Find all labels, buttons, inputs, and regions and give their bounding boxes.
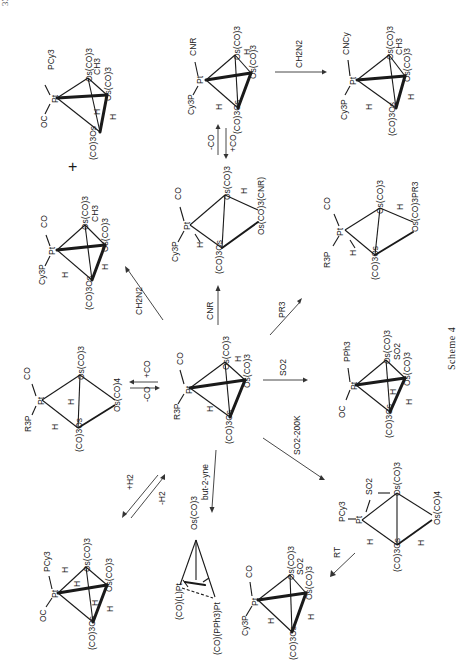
chem-label: Pt xyxy=(50,589,60,598)
scheme-canvas: 334 PCy3 OC Pt Os(CO)3 CH3 Os(CO)3 H H (… xyxy=(0,0,473,672)
chem-label: CO xyxy=(39,215,49,228)
chem-label: CO xyxy=(322,197,332,210)
arrow-pr3: PR3 xyxy=(270,298,302,335)
chem-label: H xyxy=(395,204,405,210)
chem-label: CH2N2 xyxy=(134,287,144,315)
chem-label: H xyxy=(404,399,414,405)
chem-label: +H2 xyxy=(125,474,135,490)
chem-label: H xyxy=(388,389,398,395)
chem-label: H xyxy=(195,242,205,248)
chem-label: R3P xyxy=(322,251,332,268)
chem-label: (CO)3Os xyxy=(214,240,224,274)
chem-label: PCy3 xyxy=(46,49,56,70)
chem-label: H xyxy=(205,406,215,412)
chem-label: PR3 xyxy=(277,301,287,318)
structure-bottom-so2: CO Cy3P Pt Os(CO)3 SO2 Os(CO)3 H H (CO)3… xyxy=(240,546,316,660)
structure-bottom-left: PCy3 OC Pt H H Os(CO)3 Os(CO)3 H H (CO)3… xyxy=(38,538,115,650)
chem-label: (CO)3Os xyxy=(224,410,234,444)
chem-label: Os(CO)3 xyxy=(402,48,412,82)
chem-label: H xyxy=(105,606,115,612)
chem-label: Pt xyxy=(47,246,57,255)
chem-label: Pt xyxy=(50,94,60,103)
arrow-ch2n2-top: CH2N2 xyxy=(275,40,327,75)
page-number: 334 xyxy=(0,0,10,6)
chem-label: H xyxy=(306,614,316,620)
chem-label: -CO xyxy=(206,134,216,150)
chem-label: Os(CO)3 xyxy=(221,336,231,370)
chem-label: Os(CO)3 xyxy=(304,566,314,600)
chem-label: H xyxy=(72,581,82,587)
chem-label: Os(CO)3 xyxy=(222,166,232,200)
arrow-h2-equilibrium: +H2 -H2 xyxy=(122,474,167,518)
arrow-but-2-yne: but-2-yne xyxy=(200,450,216,513)
chem-label: H xyxy=(50,424,60,430)
chem-label: Os(CO)3(CNR) xyxy=(256,177,266,235)
chem-label: SO2 xyxy=(278,359,288,376)
chem-label: H xyxy=(60,567,70,573)
arrow-ch2n2-left: CH2N2 xyxy=(125,266,163,320)
chem-label: Os(CO)4 xyxy=(112,378,122,412)
chem-label: H xyxy=(214,104,224,110)
chem-label: Pt xyxy=(335,227,345,236)
chem-label: H xyxy=(365,539,375,545)
arrow-so2-200k: SO2-200K xyxy=(263,415,325,480)
chem-label: Os(CO)4 xyxy=(432,491,442,525)
chem-label: (CO)3Os xyxy=(84,276,94,310)
chem-label: H xyxy=(406,94,416,100)
chem-label: (CO)3Os xyxy=(392,538,402,572)
chem-label: but-2-yne xyxy=(200,464,210,500)
structure-bottom-alkyne: Os(CO)3 (CO)(L)Pt (CO)(PPh3)Pt xyxy=(174,496,222,655)
chem-label: H xyxy=(348,250,358,256)
chem-label: R3P xyxy=(172,403,182,420)
chem-label: H xyxy=(66,399,76,405)
chem-label: H xyxy=(92,109,102,115)
chem-label: R3P xyxy=(23,415,33,432)
chem-label: (CO)3Os xyxy=(74,418,84,452)
chem-label: Os(CO)3 xyxy=(76,346,86,380)
chem-label: Pt xyxy=(182,221,192,230)
chem-label: -CO xyxy=(142,386,152,402)
chem-label: CO xyxy=(173,187,183,200)
chem-label: (CO)3Os xyxy=(232,100,242,134)
chem-label: -H2 xyxy=(157,491,167,505)
chem-label: SO2 xyxy=(364,478,374,495)
chem-label: H xyxy=(239,188,249,194)
chem-label: Os(CO)3 xyxy=(80,196,90,230)
structure-mid-left: CO Cy3P Pt Os(CO)3 CH3 Os(CO)3 H H (CO)3… xyxy=(37,196,110,310)
chem-label: Os(CO)3 xyxy=(100,218,110,252)
chem-label: Os(CO)3 xyxy=(375,180,385,214)
chem-label: Os(CO)3 xyxy=(103,67,113,101)
chem-label: OC xyxy=(38,609,48,622)
chem-label: Os(CO)3 xyxy=(242,354,252,388)
chem-label: CNCy xyxy=(341,32,351,55)
chem-label: (CO)3Os xyxy=(87,616,97,650)
chem-label: Os(CO)3 xyxy=(402,352,412,386)
chem-label: Pt xyxy=(348,76,358,85)
chem-label: CNR xyxy=(188,38,198,56)
structure-center: CO R3P Pt H Os(CO)3 H Os(CO)3 (CO)3Os xyxy=(172,336,252,444)
chem-label: CO xyxy=(22,367,32,380)
chem-label: H xyxy=(266,618,276,624)
chem-label: Cy3P xyxy=(170,241,180,262)
chem-label: PCy3 xyxy=(42,551,52,572)
chem-label: Pt xyxy=(250,597,260,606)
chem-label: Os(CO)3 xyxy=(382,330,392,364)
chem-label: (CO)3Os xyxy=(384,404,394,438)
chem-label: Os(CO)3 xyxy=(104,558,114,592)
arrow-rt: RT xyxy=(330,547,355,577)
chem-label: H xyxy=(90,600,100,606)
chem-label: H xyxy=(108,114,118,120)
chem-label: CH3 xyxy=(92,58,102,75)
chem-label: Cy3P xyxy=(186,94,196,115)
chem-label: Pt xyxy=(36,396,46,405)
chem-label: PPh3 xyxy=(342,341,352,362)
chem-label: CO xyxy=(175,352,185,365)
chem-label: H xyxy=(416,540,426,546)
chem-label: SO2-200K xyxy=(292,415,302,455)
chem-label: RT xyxy=(332,547,342,558)
chem-label: (CO)(PPh3)Pt xyxy=(212,601,222,655)
structure-mid-right: CO R3P Pt Os(CO)3 H Os(CO)3PR3 H (CO)3Os xyxy=(322,180,420,280)
chem-label: H xyxy=(60,272,70,278)
chem-label: SO2 xyxy=(392,343,402,360)
chem-label: (CO)3Os xyxy=(387,102,397,136)
